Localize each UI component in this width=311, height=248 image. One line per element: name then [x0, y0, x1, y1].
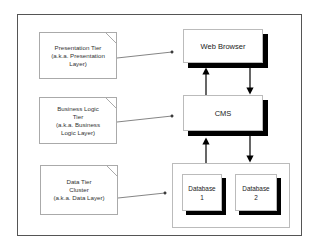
note-leader-lines [117, 51, 173, 198]
flow-arrows [206, 68, 250, 163]
connectors [0, 0, 311, 248]
